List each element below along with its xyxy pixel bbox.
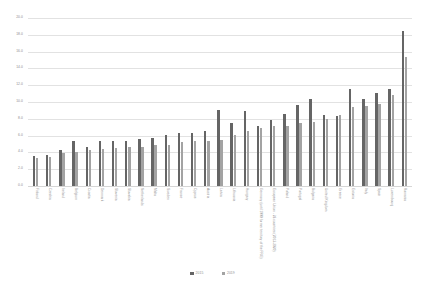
bar [326,119,328,186]
bar [270,120,272,186]
bar [115,148,117,186]
x-axis-tick: Ireland [55,188,68,266]
bar [128,147,130,186]
y-axis-tick-label: 14.0 [16,67,23,71]
y-axis-tick-label: 8.0 [18,117,23,121]
bar [151,138,153,186]
bar-group [227,18,240,186]
bar [207,141,209,186]
x-axis-tick: Netherlands [134,188,147,266]
bar-group [42,18,55,186]
bar [402,31,404,186]
bar [392,95,394,186]
y-axis-tick-label: 18.0 [16,33,23,37]
chart-legend: 20152019 [0,272,425,276]
y-axis-tick-label: 0.0 [18,184,23,188]
bar-group [200,18,213,186]
legend-item[interactable]: 2015 [190,272,203,276]
bar-group [161,18,174,186]
x-axis-tick-label: Denmark [100,188,103,201]
x-axis-tick-label: European Union - 28 countries (2013-2020… [271,188,274,252]
y-axis-tick-label: 4.0 [18,151,23,155]
bar [260,128,262,186]
x-axis-tick: Germany (until 1990 former territory of … [253,188,266,266]
legend-swatch [190,272,193,275]
x-axis-tick: Czechia [42,188,55,266]
x-axis-tick-label: Belgium [73,188,76,200]
x-axis-tick: Cyprus [187,188,200,266]
bar [309,99,311,186]
bar [49,157,51,186]
x-axis-tick: European Union - 28 countries (2013-2020… [266,188,279,266]
plot-area [28,18,412,186]
bar [72,141,74,186]
x-axis-tick-label: Germany (until 1990 former territory of … [258,188,261,259]
bar [244,111,246,186]
y-axis-tick-label: 20.0 [16,16,23,20]
bar [273,126,275,186]
bar [141,147,143,186]
bar [99,141,101,186]
x-axis-tick: Portugal [292,188,305,266]
bar-group [148,18,161,186]
bar [378,104,380,186]
x-axis-tick: Romania [398,188,411,266]
bar [112,141,114,186]
x-axis-tick-label: Croatia [87,188,90,199]
bar-group [29,18,42,186]
y-axis: 20.018.016.014.012.010.08.06.04.02.00.0 [0,18,26,186]
x-axis-tick: Belgium [69,188,82,266]
bar-group [108,18,121,186]
bar [59,150,61,186]
legend-label: 2019 [227,272,235,276]
bars-layer [28,18,412,186]
x-axis-tick: Austria [200,188,213,266]
bar [296,105,298,186]
bar [362,99,364,186]
bar-group [55,18,68,186]
x-axis-tick: Bulgaria [306,188,319,266]
gridline [28,186,412,187]
bar [191,133,193,186]
x-axis-tick-label: Austria [205,188,208,198]
x-axis-tick: Denmark [95,188,108,266]
y-axis-tick-label: 10.0 [16,100,23,104]
bar [154,145,156,186]
y-axis-tick-label: 16.0 [16,50,23,54]
x-axis-tick-label: Slovakia [126,188,129,200]
bar [339,115,341,186]
bar [405,57,407,186]
bar-group [95,18,108,186]
bar-group [187,18,200,186]
x-axis-tick-label: Lithuania [231,188,234,201]
bar-group [385,18,398,186]
bar [286,126,288,186]
x-axis-tick: Slovakia [121,188,134,266]
x-axis-tick-label: Finland [34,188,37,199]
y-axis-tick-label: 6.0 [18,134,23,138]
bar [352,107,354,186]
x-axis: FinlandCzechiaIrelandBelgiumCroatiaDenma… [28,188,412,266]
bar [194,141,196,186]
bar [283,114,285,186]
x-axis-tick: Spain [371,188,384,266]
x-axis-tick-label: Latvia [218,188,221,197]
x-axis-tick-label: Greece [337,188,340,199]
bar [181,142,183,186]
bar-group [69,18,82,186]
bar-group [279,18,292,186]
bar-group [292,18,305,186]
bar [89,150,91,186]
bar [365,106,367,186]
bar [336,116,338,186]
x-axis-tick: United Kingdom [319,188,332,266]
bar [125,141,127,186]
legend-item[interactable]: 2019 [222,272,235,276]
bar-group [82,18,95,186]
bar-group [213,18,226,186]
bar [36,158,38,186]
x-axis-tick: Malta [148,188,161,266]
x-axis-tick-label: Slovenia [113,188,116,201]
bar [220,140,222,186]
bar [75,152,77,186]
